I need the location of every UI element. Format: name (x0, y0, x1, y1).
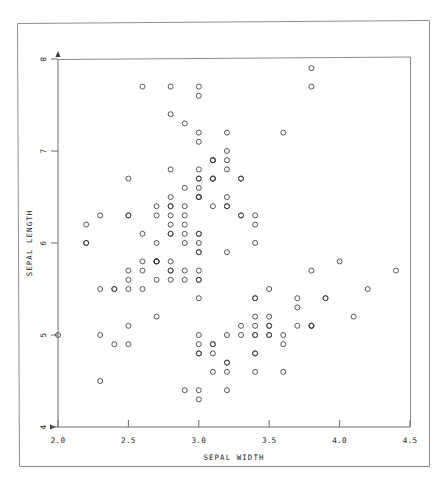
scatter-point (351, 314, 356, 319)
scatter-point (168, 231, 173, 236)
y-tick-label-3: 7 (39, 149, 48, 154)
scatter-point (281, 130, 286, 135)
scatter-point (182, 241, 187, 246)
scatter-point (210, 369, 215, 374)
scatter-point (126, 323, 131, 328)
scatter-point (112, 287, 117, 292)
scatter-point (210, 342, 215, 347)
scatter-point (168, 167, 173, 172)
scatter-point (168, 112, 173, 117)
scatter-point (196, 185, 201, 190)
scatter-point (140, 84, 145, 89)
scatter-point (196, 397, 201, 402)
scatter-plot-figure: 2.0 2.5 3.0 3.5 4.0 4.5 4 5 6 7 8 SEPAL … (0, 0, 444, 487)
scatter-point (295, 296, 300, 301)
scatter-point (196, 277, 201, 282)
scatter-point (224, 130, 229, 135)
scatter-point (309, 323, 314, 328)
scatter-point (154, 277, 159, 282)
scatter-point (196, 176, 201, 181)
scatter-point (182, 222, 187, 227)
scatter-point (196, 93, 201, 98)
scatter-point (196, 333, 201, 338)
plot-canvas: 2.0 2.5 3.0 3.5 4.0 4.5 4 5 6 7 8 SEPAL … (0, 0, 444, 487)
x-axis-ticks: 2.0 2.5 3.0 3.5 4.0 4.5 (51, 420, 418, 445)
x-tick-label-4: 4.0 (332, 436, 347, 445)
scatter-point (224, 149, 229, 154)
x-tick-label-5: 4.5 (403, 436, 418, 445)
y-tick-label-2: 6 (39, 240, 48, 245)
scatter-point (253, 314, 258, 319)
scatter-point (168, 204, 173, 209)
scatter-point (224, 333, 229, 338)
x-tick-label-1: 2.5 (121, 436, 136, 445)
scatter-point (281, 342, 286, 347)
scatter-point (168, 222, 173, 227)
scatter-point (253, 213, 258, 218)
scatter-point (323, 296, 328, 301)
x-tick-label-0: 2.0 (51, 436, 66, 445)
scatter-point (281, 369, 286, 374)
scatter-point (196, 351, 201, 356)
scatter-point (224, 360, 229, 365)
scatter-point (224, 167, 229, 172)
scatter-point (84, 241, 89, 246)
scatter-point (267, 287, 272, 292)
scatter-point (154, 241, 159, 246)
scatter-point (210, 351, 215, 356)
scatter-point (393, 268, 398, 273)
scatter-point (253, 351, 258, 356)
scatter-point (140, 268, 145, 273)
scatter-point (295, 305, 300, 310)
scatter-point (253, 369, 258, 374)
scatter-point (196, 296, 201, 301)
scatter-point (126, 342, 131, 347)
scatter-point (98, 287, 103, 292)
x-tick-label-3: 3.5 (262, 436, 277, 445)
scatter-point (253, 296, 258, 301)
scatter-point (182, 268, 187, 273)
scatter-point (196, 139, 201, 144)
scatter-point (253, 241, 258, 246)
scatter-point (267, 314, 272, 319)
scatter-point (182, 213, 187, 218)
scatter-point (253, 323, 258, 328)
scatter-point (224, 388, 229, 393)
scatter-point (196, 342, 201, 347)
scatter-point (196, 195, 201, 200)
scatter-point (140, 231, 145, 236)
scatter-point (112, 342, 117, 347)
y-axis-ticks: 4 5 6 7 8 (39, 56, 58, 429)
scatter-point (267, 333, 272, 338)
scatter-point (365, 287, 370, 292)
scatter-point (224, 158, 229, 163)
plot-region-border (58, 57, 411, 427)
outer-frame (18, 21, 430, 467)
scatter-point (196, 167, 201, 172)
scatter-point (182, 204, 187, 209)
scatter-point (239, 333, 244, 338)
scatter-point (126, 268, 131, 273)
scatter-point (84, 222, 89, 227)
scatter-point (168, 277, 173, 282)
scatter-point (154, 314, 159, 319)
scatter-point (210, 204, 215, 209)
y-axis-title: SEPAL LENGTH (25, 210, 34, 277)
x-tick-label-2: 3.0 (191, 436, 206, 445)
scatter-point (281, 333, 286, 338)
scatter-point (267, 323, 272, 328)
scatter-point (196, 84, 201, 89)
scatter-point (140, 259, 145, 264)
scatter-point (154, 259, 159, 264)
scatter-point (154, 213, 159, 218)
scatter-point (182, 277, 187, 282)
scatter-point (168, 268, 173, 273)
y-tick-label-1: 5 (39, 333, 48, 338)
scatter-point (168, 195, 173, 200)
scatter-point (196, 231, 201, 236)
scatter-point (295, 323, 300, 328)
scatter-point (224, 369, 229, 374)
scatter-point (182, 231, 187, 236)
scatter-point (126, 176, 131, 181)
scatter-point (168, 213, 173, 218)
